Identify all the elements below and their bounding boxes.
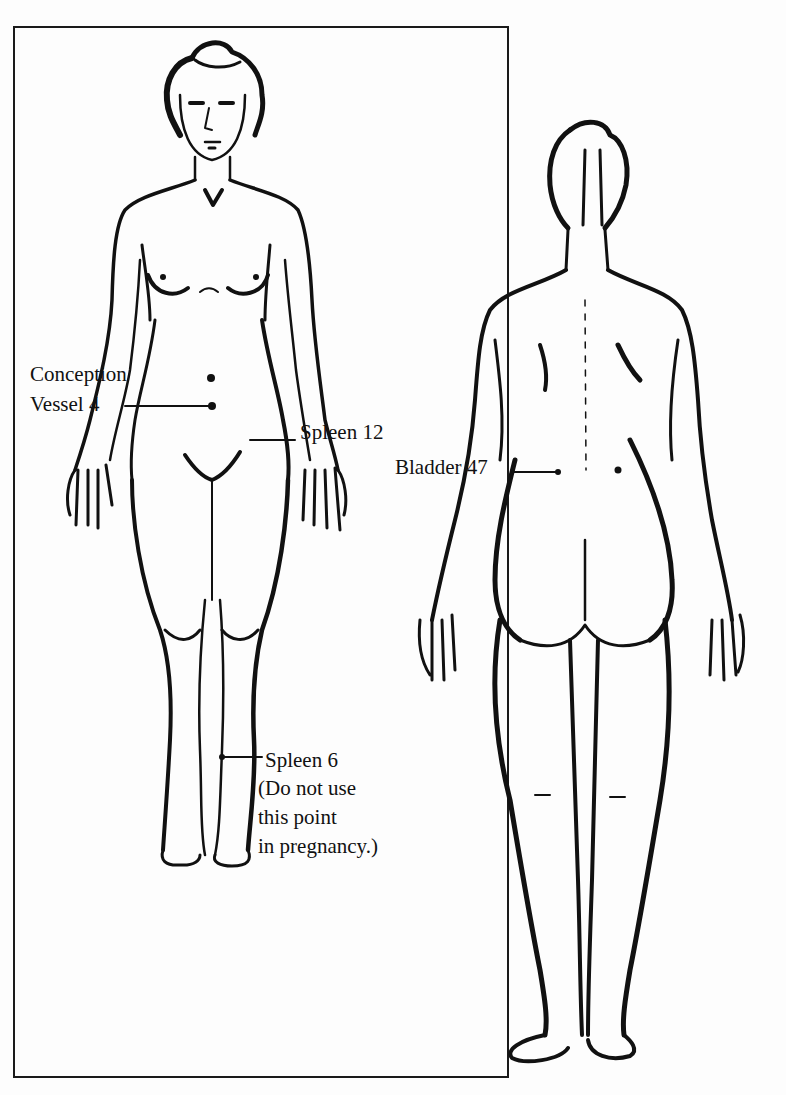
note-line-1: (Do not use [258,776,378,800]
label-bladder-47: Bladder 47 [395,455,488,479]
front-figure [68,43,346,866]
back-figure [419,122,743,1061]
label-conception-vessel-4-line2: Vessel 4 [30,392,99,416]
label-spleen-12: Spleen 12 [300,420,383,444]
note-line-3: in pregnancy.) [258,834,378,858]
spleen-6-warning-note: (Do not use this point in pregnancy.) [258,776,378,858]
note-line-2: this point [258,805,378,829]
anatomy-illustration [0,0,786,1095]
label-conception-vessel-4-line1: Conception [30,362,127,386]
label-spleen-6: Spleen 6 [265,748,338,772]
